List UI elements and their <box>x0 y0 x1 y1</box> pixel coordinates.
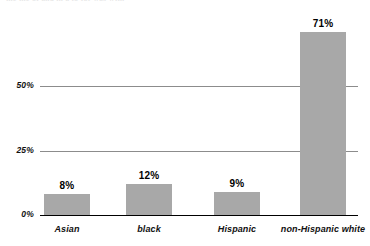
y-axis-tick-label-0: 0% <box>0 209 34 219</box>
bar-value-label-hispanic: 9% <box>202 178 272 189</box>
bar-asian[interactable] <box>44 194 90 215</box>
plot-area: 0%25%50% 8%12%9%71% AsianblackHispanicno… <box>0 0 370 246</box>
axis-baseline <box>40 215 358 216</box>
bar-black[interactable] <box>126 184 172 215</box>
bar-hispanic[interactable] <box>214 192 260 215</box>
y-axis-tick-label-50: 50% <box>0 80 34 90</box>
y-axis-tick-label-25: 25% <box>0 145 34 155</box>
x-axis-label-non-hispanic-white: non-Hispanic white <box>268 224 370 234</box>
bar-non-hispanic-white[interactable] <box>300 32 346 215</box>
bar-value-label-asian: 8% <box>32 180 102 191</box>
bar-chart: the the of and in a to for was with 0%25… <box>0 0 370 246</box>
bar-value-label-black: 12% <box>114 170 184 181</box>
bar-value-label-non-hispanic-white: 71% <box>288 18 358 29</box>
